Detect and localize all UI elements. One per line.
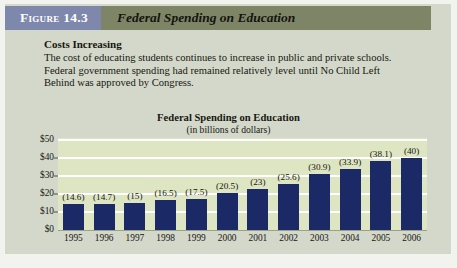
caption-line-3: Behind was approved by Congress. <box>44 77 434 90</box>
bar-column <box>370 161 391 230</box>
bar-column <box>340 169 361 230</box>
gridline <box>58 139 427 141</box>
y-axis-tick-label: $40 <box>24 153 54 162</box>
bar <box>401 158 422 230</box>
bar <box>217 193 238 230</box>
bar-column <box>155 200 176 230</box>
bar <box>155 200 176 230</box>
bar-column <box>247 189 268 230</box>
chart-title-block: Federal Spending on Education (in billio… <box>0 112 457 135</box>
caption-line-2: Federal government spending had remained… <box>44 65 434 78</box>
caption-line-1: The cost of educating students continues… <box>44 52 434 65</box>
y-axis-tick-label: $30 <box>24 171 54 180</box>
x-axis-tick-label: 2006 <box>392 233 432 243</box>
bar-value-label: (40) <box>389 147 435 156</box>
y-axis-tick-mark <box>54 157 58 158</box>
bar-column <box>63 204 84 230</box>
frame-edge-bottom <box>0 254 457 268</box>
figure-container: Figure 14.3 Federal Spending on Educatio… <box>0 0 457 268</box>
y-axis-tick-mark <box>54 175 58 176</box>
y-axis-tick-label: $0 <box>24 225 54 234</box>
frame-edge-top <box>0 0 457 4</box>
bar-column <box>401 158 422 230</box>
bar-column <box>186 199 207 231</box>
bar-column <box>278 184 299 230</box>
bar <box>278 184 299 230</box>
y-axis-tick-label: $10 <box>24 207 54 216</box>
bar <box>247 189 268 230</box>
y-axis-tick-mark <box>54 211 58 212</box>
bar-column <box>94 204 115 230</box>
y-axis-tick-label: $50 <box>24 135 54 144</box>
chart-title: Federal Spending on Education <box>0 112 457 124</box>
caption-heading: Costs Increasing <box>44 38 434 51</box>
bar-column <box>124 203 145 230</box>
bar <box>94 204 115 230</box>
bar-column <box>309 174 330 230</box>
bar <box>186 199 207 231</box>
figure-header-band: Figure 14.3 Federal Spending on Educatio… <box>5 6 431 30</box>
bar-column <box>217 193 238 230</box>
bar-value-label: (25.6) <box>266 173 312 182</box>
figure-title: Federal Spending on Education <box>117 6 295 30</box>
bar <box>340 169 361 230</box>
bar <box>309 174 330 230</box>
bar <box>63 204 84 230</box>
chart-subtitle: (in billions of dollars) <box>0 124 457 135</box>
caption-block: Costs Increasing The cost of educating s… <box>44 38 434 90</box>
figure-number-badge: Figure 14.3 <box>5 6 101 30</box>
bar <box>124 203 145 230</box>
bar <box>370 161 391 230</box>
y-axis: $0$10$20$30$40$50 <box>22 134 54 234</box>
